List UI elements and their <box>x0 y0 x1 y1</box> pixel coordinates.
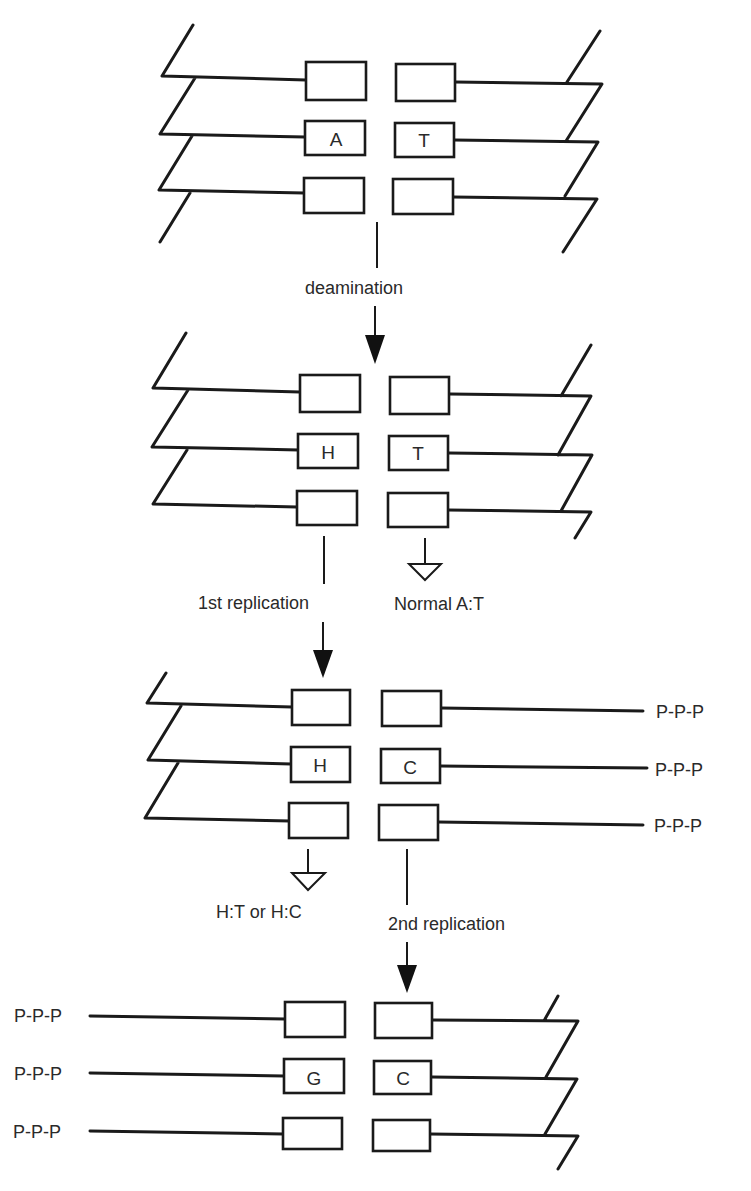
base-box <box>300 375 360 412</box>
base-box <box>382 691 441 726</box>
new-strand-line <box>440 766 647 768</box>
left-backbone <box>159 25 306 242</box>
base-box <box>297 491 357 525</box>
base-label-H: H <box>313 755 327 776</box>
stage-deaminated: H T <box>152 333 592 538</box>
open-arrow-icon <box>292 873 325 890</box>
deamination-step: deamination <box>305 222 403 364</box>
base-box <box>292 690 350 725</box>
first-replication-label: 1st replication <box>198 593 309 613</box>
second-replication-step: H:T or H:C 2nd replication <box>216 849 505 993</box>
triphosphate-label: P-P-P <box>14 1006 62 1026</box>
h-pair-outcome-label: H:T or H:C <box>216 902 302 922</box>
down-arrow-icon <box>397 965 417 993</box>
base-box <box>379 805 438 840</box>
base-box <box>285 1002 345 1037</box>
stage-original: A T <box>159 25 602 252</box>
left-backbone <box>145 673 292 821</box>
base-label-T: T <box>412 443 424 464</box>
base-box <box>396 64 455 101</box>
stage-first-replication-product: H C P-P-P P-P-P P-P-P <box>145 673 704 840</box>
triphosphate-label: P-P-P <box>654 816 702 836</box>
normal-outcome-label: Normal A:T <box>394 594 484 614</box>
new-strand-line <box>441 708 643 711</box>
base-label-H: H <box>321 442 335 463</box>
base-label-G: G <box>307 1068 322 1089</box>
new-strand-line <box>90 1073 284 1076</box>
base-label-C: C <box>403 757 417 778</box>
base-label-T: T <box>418 130 430 151</box>
right-backbone <box>453 31 602 252</box>
base-label-A: A <box>330 129 343 150</box>
triphosphate-label: P-P-P <box>656 702 704 722</box>
triphosphate-label: P-P-P <box>655 760 703 780</box>
base-box <box>373 1120 430 1151</box>
open-arrow-icon <box>409 564 441 580</box>
base-label-C: C <box>396 1068 410 1089</box>
base-box <box>390 377 449 414</box>
triphosphate-label: P-P-P <box>14 1064 62 1084</box>
second-replication-label: 2nd replication <box>388 914 505 934</box>
first-replication-step: 1st replication Normal A:T <box>198 536 484 678</box>
base-box <box>306 62 366 100</box>
right-backbone <box>448 345 592 538</box>
base-box <box>283 1118 342 1149</box>
down-arrow-icon <box>313 650 333 678</box>
triphosphate-label: P-P-P <box>13 1122 61 1142</box>
deamination-label: deamination <box>305 278 403 298</box>
new-strand-line <box>90 1016 285 1019</box>
new-strand-line <box>438 822 643 825</box>
stage-second-replication-product: P-P-P P-P-P P-P-P G C <box>13 996 578 1169</box>
down-arrow-icon <box>365 335 385 364</box>
base-box <box>388 493 448 527</box>
base-box <box>289 803 348 838</box>
new-strand-line <box>90 1131 283 1134</box>
base-box <box>375 1003 432 1038</box>
left-backbone <box>152 333 300 507</box>
deamination-diagram: A T deamination H T 1st replication Norm… <box>0 0 751 1191</box>
base-box <box>393 179 453 214</box>
right-backbone <box>430 996 578 1169</box>
base-box <box>304 178 364 213</box>
